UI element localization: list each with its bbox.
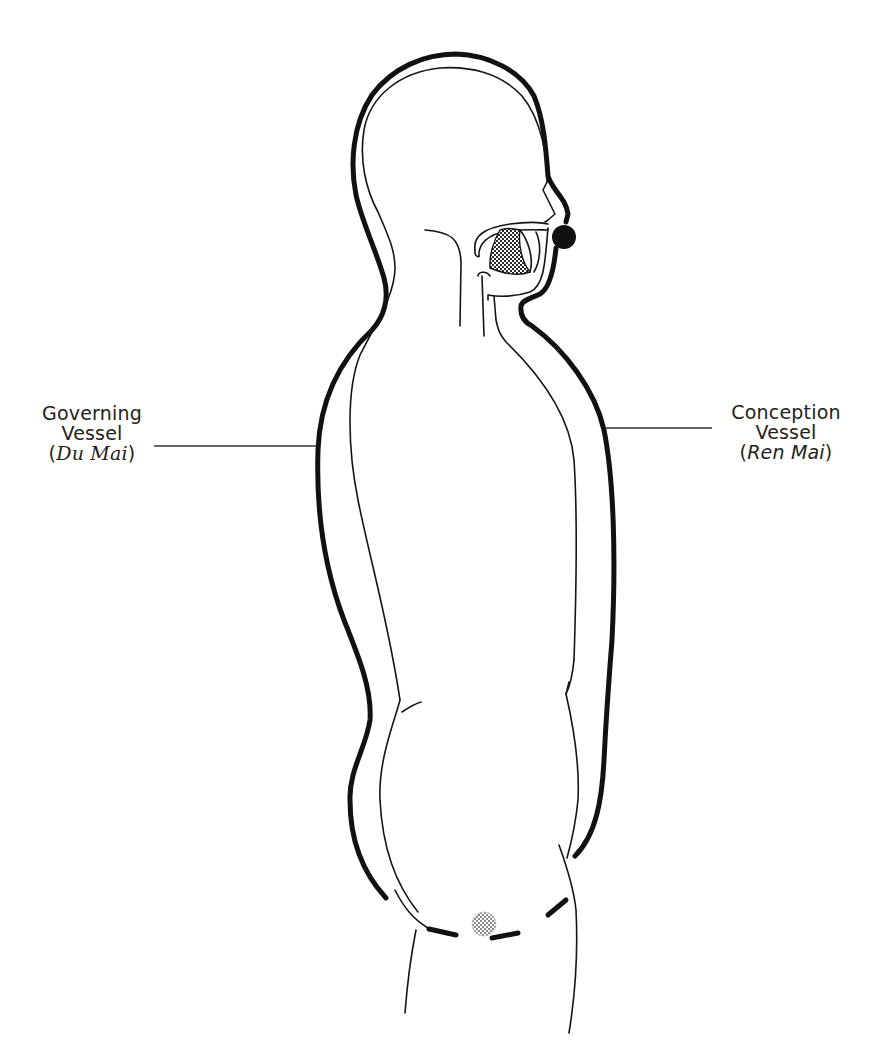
perineum-dash-2 <box>492 933 518 938</box>
leg-front <box>559 845 577 1033</box>
conception-vessel-pinyin-line: (Ren Mai) <box>712 442 860 462</box>
governing-vessel-label-line2: Vessel <box>30 423 154 443</box>
body-back-contour <box>350 68 547 700</box>
paren-close: ) <box>128 442 136 464</box>
conception-vessel-label: Conception Vessel (Ren Mai) <box>712 402 860 462</box>
vessel-paths <box>318 54 614 938</box>
groin-back <box>395 890 428 928</box>
paren-open: ( <box>740 441 748 463</box>
perineum-junction-dot[interactable] <box>472 912 496 936</box>
governing-vessel-pinyin: Du Mai <box>56 442 128 464</box>
conception-vessel-label-line2: Vessel <box>712 422 860 442</box>
governing-vessel-label: Governing Vessel (Du Mai) <box>30 403 154 463</box>
governing-vessel-pinyin-line: (Du Mai) <box>30 443 154 463</box>
throat-back <box>425 230 461 326</box>
conception-vessel-label-line1: Conception <box>712 402 860 422</box>
trachea-line <box>482 276 484 336</box>
conception-vessel-path[interactable] <box>521 248 614 856</box>
governing-vessel-path[interactable] <box>318 54 568 898</box>
body-outline <box>350 68 578 1033</box>
conception-vessel-pinyin: Ren Mai <box>747 441 825 463</box>
trachea-line-2 <box>478 272 490 276</box>
perineum-dash-3 <box>548 900 566 915</box>
meridian-diagram <box>0 0 874 1056</box>
back-lower <box>380 700 418 912</box>
hip-mark-back <box>402 702 421 712</box>
paren-close: ) <box>825 441 833 463</box>
perineum-dash-1 <box>429 929 456 935</box>
leg-back <box>405 930 416 1013</box>
throat-front <box>494 296 576 660</box>
mouth-junction-dot[interactable] <box>552 225 576 249</box>
governing-vessel-label-line1: Governing <box>30 403 154 423</box>
